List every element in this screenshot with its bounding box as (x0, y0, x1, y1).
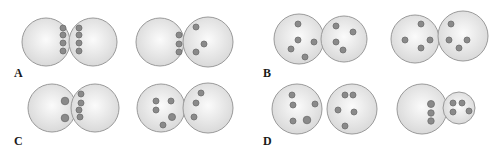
chromosome-dot (60, 32, 66, 38)
chromosome-dot (446, 37, 452, 43)
cell-pair-a-2 (136, 17, 233, 67)
chromosome-dot (193, 49, 199, 55)
chromosome-dot (450, 109, 456, 115)
chromosome-dot (340, 47, 346, 53)
cell-pair-c-1 (28, 84, 119, 132)
chromosome-dot (76, 25, 82, 31)
cell-pair-b-2 (391, 11, 488, 63)
panel-d (272, 84, 475, 134)
chromosome-dot (351, 109, 357, 115)
cell-pair-b-1 (274, 14, 367, 64)
chromosome-dot (169, 114, 176, 121)
right-cell (183, 17, 233, 67)
chromosome-dot (160, 122, 166, 128)
panel-label-d: D (263, 134, 272, 148)
chromosome-dot (61, 114, 69, 122)
chromosome-dot (428, 101, 435, 108)
panel-label-a: A (14, 66, 23, 80)
chromosome-dot (289, 92, 295, 98)
chromosome-dot (60, 40, 66, 46)
chromosome-dot (342, 123, 348, 129)
chromosome-dot (176, 41, 182, 47)
chromosome-dot (303, 116, 311, 124)
chromosome-dot (153, 107, 159, 113)
chromosome-dot (418, 45, 424, 51)
chromosome-dot (78, 100, 84, 106)
chromosome-dot (191, 114, 197, 120)
panel-b (274, 11, 488, 64)
left-cell (28, 84, 76, 132)
chromosome-dot (350, 92, 356, 98)
cell-pair-d-1 (272, 84, 377, 134)
chromosome-dot (312, 101, 318, 107)
left-cell (272, 84, 322, 134)
chromosome-dot (428, 118, 434, 124)
chromosome-dot (153, 98, 159, 104)
chromosome-dot (76, 48, 82, 54)
cells-layer (22, 11, 488, 134)
cell-pair-a-1 (22, 18, 117, 66)
chromosome-dot (176, 49, 182, 55)
panel-label-c: C (14, 134, 23, 148)
chromosome-dot (311, 39, 317, 45)
cell-pair-c-2 (137, 83, 233, 133)
right-cell (327, 84, 377, 134)
chromosome-dot (76, 32, 82, 38)
cell-pairs-diagram: A B C D (0, 0, 499, 153)
chromosome-dot (290, 102, 296, 108)
chromosome-dot (193, 100, 199, 106)
right-cell (183, 83, 233, 133)
chromosome-dot (78, 91, 84, 97)
cell-pair-d-2 (397, 84, 475, 134)
chromosome-dot (456, 45, 462, 51)
chromosome-dot (168, 98, 174, 104)
chromosome-dot (418, 21, 424, 27)
right-cell (438, 11, 488, 61)
chromosome-dot (448, 21, 454, 27)
chromosome-dot (290, 118, 296, 124)
chromosome-dot (193, 24, 199, 30)
chromosome-dot (288, 46, 294, 52)
chromosome-dot (201, 41, 207, 47)
chromosome-dot (76, 40, 82, 46)
chromosome-dot (333, 23, 339, 29)
chromosome-dot (295, 21, 301, 27)
chromosome-dot (77, 114, 83, 120)
chromosome-dot (350, 29, 356, 35)
chromosome-dot (342, 92, 348, 98)
chromosome-dot (428, 110, 434, 116)
chromosome-dot (295, 37, 301, 43)
panel-a (22, 17, 233, 67)
chromosome-dot (76, 107, 82, 113)
chromosome-dot (335, 107, 341, 113)
chromosome-dot (302, 54, 308, 60)
chromosome-dot (198, 90, 204, 96)
chromosome-dot (464, 37, 470, 43)
chromosome-dot (60, 25, 66, 31)
panel-label-b: B (263, 66, 271, 80)
chromosome-dot (176, 32, 182, 38)
chromosome-dot (427, 37, 433, 43)
chromosome-dot (60, 48, 66, 54)
right-cell (321, 16, 367, 62)
chromosome-dot (402, 37, 408, 43)
chromosome-dot (450, 100, 456, 106)
chromosome-dot (61, 97, 69, 105)
chromosome-dot (466, 108, 472, 114)
left-cell (397, 84, 447, 134)
panel-c (28, 83, 233, 133)
chromosome-dot (459, 100, 465, 106)
chromosome-dot (333, 39, 339, 45)
